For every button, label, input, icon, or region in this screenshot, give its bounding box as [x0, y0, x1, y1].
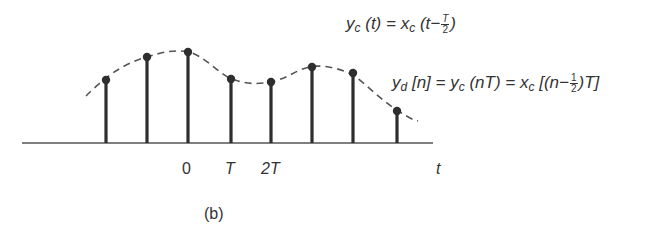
tick-label-2T: 2T [261, 160, 280, 178]
fraction-T-over-2: T2 [441, 14, 449, 35]
axis-variable-t: t [436, 160, 440, 178]
continuous-envelope-curve [86, 51, 418, 121]
equation-discrete: yd [n] = yc (nT) = xc [(n−12)T] [392, 73, 599, 94]
stem-plot [0, 0, 655, 247]
stems [102, 48, 401, 143]
fraction-one-half: 12 [570, 73, 578, 94]
equation-continuous: yc (t) = xc (t−T2) [346, 14, 456, 35]
tick-label-T: T [225, 160, 235, 178]
panel-label: (b) [204, 205, 224, 223]
tick-label-zero: 0 [182, 160, 191, 178]
